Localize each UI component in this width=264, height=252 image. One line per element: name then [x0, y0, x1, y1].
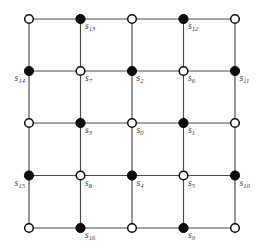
node-label-subscript: 7 [89, 77, 92, 84]
node-label: s1 [188, 126, 195, 136]
lattice-node-filled[interactable] [127, 171, 136, 180]
lattice-node-hollow[interactable] [76, 67, 85, 76]
node-label: s16 [85, 231, 95, 241]
lattice-node-filled[interactable] [76, 118, 85, 127]
lattice-node-filled[interactable] [230, 171, 239, 180]
lattice-node-hollow[interactable] [128, 224, 137, 233]
node-label: s9 [188, 231, 195, 241]
node-label: s10 [240, 179, 250, 189]
node-label-subscript: 15 [18, 182, 25, 189]
node-label-subscript: 4 [140, 182, 143, 189]
node-label-subscript: 16 [89, 234, 96, 241]
lattice-node-hollow[interactable] [179, 67, 188, 76]
lattice-graph-svg [0, 0, 264, 252]
node-label: s13 [85, 22, 95, 32]
node-label: s12 [188, 22, 198, 32]
node-label-subscript: 2 [140, 77, 143, 84]
lattice-node-filled[interactable] [179, 118, 188, 127]
node-label-subscript: 0 [140, 129, 143, 136]
lattice-node-filled[interactable] [179, 223, 188, 232]
node-label-subscript: 13 [89, 25, 96, 32]
lattice-node-hollow[interactable] [231, 224, 240, 233]
lattice-node-hollow[interactable] [231, 15, 240, 24]
node-label: s8 [85, 179, 92, 189]
lattice-node-hollow[interactable] [231, 119, 240, 128]
lattice-node-hollow[interactable] [128, 15, 137, 24]
lattice-node-hollow[interactable] [76, 171, 85, 180]
node-label-subscript: 8 [89, 182, 92, 189]
lattice-node-filled[interactable] [230, 66, 239, 75]
lattice-node-filled[interactable] [179, 14, 188, 23]
node-label-subscript: 3 [89, 129, 92, 136]
lattice-node-filled[interactable] [127, 66, 136, 75]
node-label: s3 [85, 126, 92, 136]
node-label: s0 [137, 126, 144, 136]
node-label: s14 [0, 74, 25, 84]
node-label-subscript: 9 [192, 234, 195, 241]
lattice-node-filled[interactable] [24, 171, 33, 180]
node-label-subscript: 6 [192, 77, 195, 84]
node-label: s15 [0, 179, 25, 189]
lattice-node-filled[interactable] [76, 14, 85, 23]
lattice-node-hollow[interactable] [25, 15, 34, 24]
node-label-subscript: 10 [243, 182, 250, 189]
node-label-subscript: 11 [243, 77, 249, 84]
node-label-subscript: 1 [192, 129, 195, 136]
lattice-node-filled[interactable] [76, 223, 85, 232]
lattice-node-hollow[interactable] [25, 224, 34, 233]
node-label-subscript: 12 [192, 25, 199, 32]
node-label: s7 [85, 74, 92, 84]
node-label: s11 [240, 74, 250, 84]
lattice-node-filled[interactable] [24, 66, 33, 75]
lattice-node-hollow[interactable] [128, 119, 137, 128]
node-label: s5 [188, 179, 195, 189]
node-label: s4 [137, 179, 144, 189]
node-label-subscript: 5 [192, 182, 195, 189]
lattice-node-hollow[interactable] [179, 171, 188, 180]
node-label-subscript: 14 [18, 77, 25, 84]
node-label: s6 [188, 74, 195, 84]
lattice-figure: s13s12s14s7s2s6s11s3s0s1s15s8s4s5s10s16s… [0, 0, 264, 252]
lattice-node-hollow[interactable] [25, 119, 34, 128]
node-label: s2 [137, 74, 144, 84]
